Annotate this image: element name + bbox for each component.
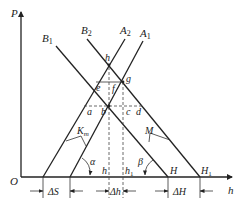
label-h-axis: h xyxy=(102,165,107,176)
point-g xyxy=(122,81,125,84)
label-B1: B1 xyxy=(42,32,53,46)
label-alpha: α xyxy=(90,156,96,167)
label-a: a xyxy=(87,106,92,117)
label-M: M xyxy=(144,125,154,136)
label-beta: β xyxy=(137,156,143,167)
label-A1: A1 xyxy=(139,27,151,41)
label-h-top: h xyxy=(105,52,110,63)
line-B1 xyxy=(56,46,168,177)
h-axis-label: h xyxy=(228,184,234,196)
label-H: H xyxy=(169,165,178,176)
label-Km: Km xyxy=(76,125,89,138)
label-delta-H: ΔH xyxy=(172,186,187,197)
beta-arc xyxy=(145,160,153,175)
point-h xyxy=(108,64,111,67)
diagram-canvas: P h O B1 B2 A2 A1 h e f g a b c d h h1 H… xyxy=(0,0,244,206)
label-e: e xyxy=(96,82,101,93)
label-B2: B2 xyxy=(81,24,92,38)
p-axis-label: P xyxy=(10,7,18,19)
label-delta-S: ΔS xyxy=(47,186,59,197)
label-A2: A2 xyxy=(119,24,131,38)
label-c: c xyxy=(126,106,131,117)
label-d: d xyxy=(136,106,142,117)
label-h1-axis: h1 xyxy=(125,165,134,178)
label-g: g xyxy=(126,73,131,84)
label-b: b xyxy=(101,106,106,117)
line-A2 xyxy=(43,39,125,177)
origin-label: O xyxy=(10,175,18,187)
alpha-arc xyxy=(82,158,90,175)
point-b xyxy=(108,105,111,108)
label-delta-h: Δh xyxy=(109,186,121,197)
label-H1: H1 xyxy=(200,165,212,178)
